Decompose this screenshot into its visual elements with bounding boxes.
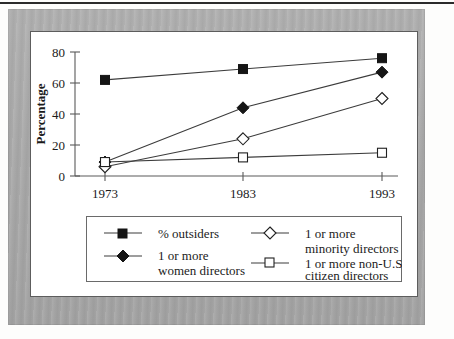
legend-label-women-line2: women directors xyxy=(158,263,245,278)
legend-entry-noncitizen: 1 or more non-U.S. citizen directors xyxy=(251,256,402,282)
series-line xyxy=(105,72,382,162)
legend-content: % outsiders 1 or more women directors 1 … xyxy=(86,216,402,282)
legend-label-outsiders-line1: % outsiders xyxy=(158,226,219,241)
legend-label-minority-line1: 1 or more xyxy=(305,226,356,241)
open-square-icon xyxy=(265,258,274,267)
legend-entry-women: 1 or more women directors xyxy=(104,248,245,278)
open-square-icon xyxy=(101,158,110,167)
y-tick-label-20: 20 xyxy=(52,138,65,153)
open-square-icon xyxy=(239,153,248,162)
series-layer xyxy=(99,54,388,173)
filled-square-icon xyxy=(118,229,127,238)
legend-label-noncitizen-line2: citizen directors xyxy=(305,268,388,282)
y-tick-label-80: 80 xyxy=(52,45,65,60)
x-tick-label-1993: 1993 xyxy=(369,186,395,201)
filled-square-icon xyxy=(101,75,110,84)
open-square-icon xyxy=(378,148,387,157)
filled-square-icon xyxy=(378,54,387,63)
x-tick-label-1983: 1983 xyxy=(230,186,256,201)
y-tick-label-40: 40 xyxy=(52,107,65,122)
filled-diamond-icon xyxy=(376,66,388,78)
figure-page: 80 60 40 20 0 Percentage 1973 1983 1993 … xyxy=(0,0,454,339)
legend-entry-minority: 1 or more minority directors xyxy=(251,226,399,256)
open-diamond-icon xyxy=(237,133,249,145)
open-diamond-icon xyxy=(376,93,388,105)
series-1-or-more-non-u-s-citizen-directors xyxy=(101,148,387,166)
open-diamond-icon xyxy=(264,227,276,239)
legend-entry-outsiders: % outsiders xyxy=(104,226,219,241)
legend-label-minority-line2: minority directors xyxy=(305,241,399,256)
page-top-rule xyxy=(0,2,454,4)
filled-square-icon xyxy=(239,65,248,74)
series-outsiders xyxy=(101,54,387,85)
y-tick-label-60: 60 xyxy=(52,76,65,91)
x-tick-label-1973: 1973 xyxy=(92,186,118,201)
filled-diamond-icon xyxy=(117,250,129,262)
y-axis-title: Percentage xyxy=(33,83,48,144)
filled-diamond-icon xyxy=(237,102,249,114)
legend-label-women-line1: 1 or more xyxy=(158,248,209,263)
y-tick-label-0: 0 xyxy=(59,169,66,184)
